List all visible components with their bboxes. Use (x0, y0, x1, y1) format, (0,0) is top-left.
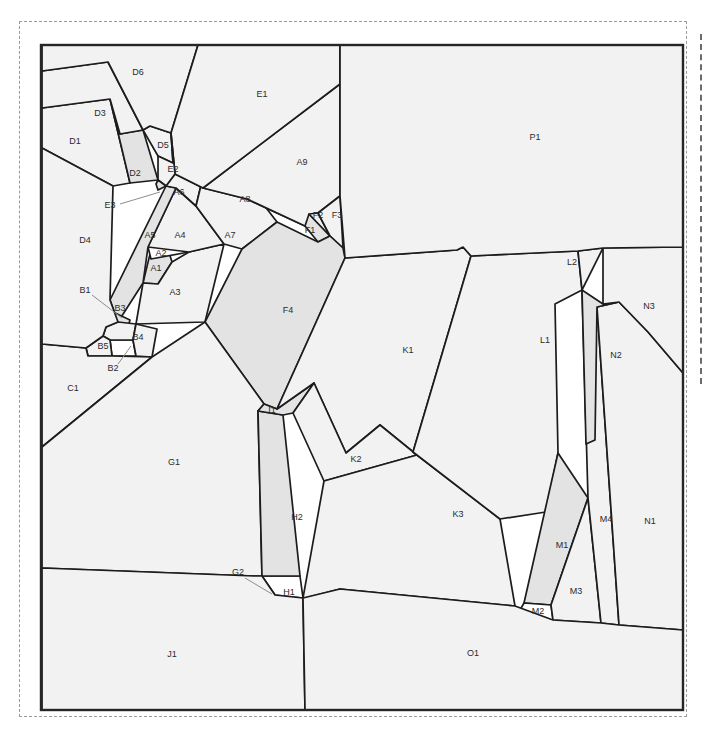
region-j1[interactable] (42, 568, 305, 710)
region-label-a7: A7 (224, 230, 235, 240)
figure-page: A1A2A3A4A5A6A7A8A9B1B2B3B4B5C1D1D2D3D4D5… (0, 0, 708, 732)
region-label-a4: A4 (174, 230, 185, 240)
region-label-b2: B2 (107, 363, 118, 373)
region-label-d2: D2 (129, 168, 141, 178)
region-label-k3: K3 (452, 509, 463, 519)
region-label-b5: B5 (97, 341, 108, 351)
region-label-k1: K1 (402, 345, 413, 355)
region-label-a6: A6 (173, 187, 184, 197)
region-label-m2: M2 (532, 606, 545, 616)
region-label-m4: M4 (600, 514, 613, 524)
region-label-e1: E1 (256, 89, 267, 99)
region-label-l2: L2 (567, 257, 577, 267)
regions-layer (42, 45, 683, 710)
region-label-f1: F1 (305, 225, 316, 235)
region-label-p1: P1 (529, 132, 540, 142)
region-h2[interactable] (258, 411, 300, 576)
region-label-f4: F4 (283, 305, 294, 315)
region-label-j1: J1 (167, 649, 177, 659)
region-label-d6: D6 (132, 67, 144, 77)
region-label-n2: N2 (610, 350, 622, 360)
region-label-k2: K2 (350, 454, 361, 464)
region-l2[interactable] (578, 248, 603, 290)
region-label-e2: E2 (167, 164, 178, 174)
region-label-n1: N1 (644, 516, 656, 526)
parcel-map[interactable]: A1A2A3A4A5A6A7A8A9B1B2B3B4B5C1D1D2D3D4D5… (0, 0, 708, 732)
region-label-a9: A9 (296, 157, 307, 167)
region-label-h2: H2 (291, 512, 303, 522)
region-label-e3: E3 (104, 200, 115, 210)
region-label-d4: D4 (79, 235, 91, 245)
region-b2[interactable] (110, 340, 136, 356)
region-label-b4: B4 (132, 332, 143, 342)
region-label-d1: D1 (69, 136, 81, 146)
region-label-m1: M1 (556, 540, 569, 550)
leader-line-e3 (120, 192, 160, 204)
region-label-a2: A2 (155, 248, 166, 258)
region-p1[interactable] (340, 45, 683, 258)
region-label-i1: I1 (268, 405, 276, 415)
region-label-l1: L1 (540, 335, 550, 345)
region-label-d5: D5 (157, 140, 169, 150)
region-label-g2: G2 (232, 567, 244, 577)
region-label-d3: D3 (94, 108, 106, 118)
region-label-b3: B3 (114, 303, 125, 313)
region-label-o1: O1 (467, 648, 479, 658)
region-label-c1: C1 (67, 383, 79, 393)
region-label-g1: G1 (168, 457, 180, 467)
region-label-a5: A5 (144, 230, 155, 240)
region-label-f3: F3 (332, 210, 343, 220)
region-label-b1: B1 (79, 285, 90, 295)
region-label-f2: F2 (313, 210, 324, 220)
region-label-m3: M3 (570, 586, 583, 596)
region-label-a3: A3 (169, 287, 180, 297)
region-label-n3: N3 (643, 301, 655, 311)
region-label-h1: H1 (283, 587, 295, 597)
region-label-a8: A8 (239, 194, 250, 204)
region-label-a1: A1 (150, 263, 161, 273)
